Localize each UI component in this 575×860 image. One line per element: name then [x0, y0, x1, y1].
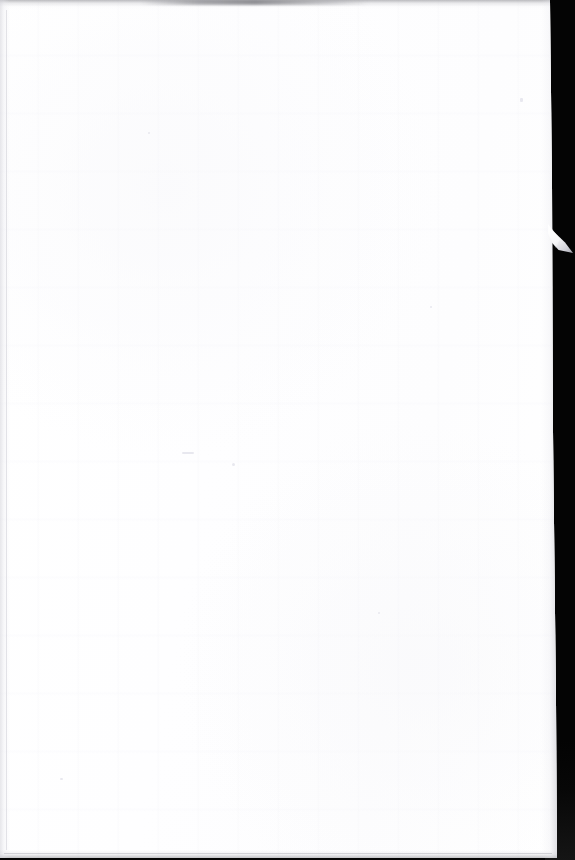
- scan-speck: [182, 452, 194, 454]
- scan-speck: [232, 463, 235, 466]
- scan-speck: [520, 98, 523, 102]
- scan-speck: [430, 306, 432, 308]
- page-edge-smudge-top: [140, 0, 370, 5]
- page-edge-shadow-bottom: [0, 850, 557, 858]
- scan-band-overlay: [0, 0, 557, 858]
- scan-speck: [148, 132, 150, 134]
- scan-speck: [378, 612, 380, 614]
- page-margin-rule-left: [6, 10, 7, 850]
- scanned-page-canvas: [0, 0, 575, 860]
- paper-sheet: [0, 0, 557, 858]
- page-edge-shadow-left: [0, 0, 10, 858]
- scan-speck: [60, 778, 63, 780]
- page-margin-rule-bottom: [4, 853, 552, 854]
